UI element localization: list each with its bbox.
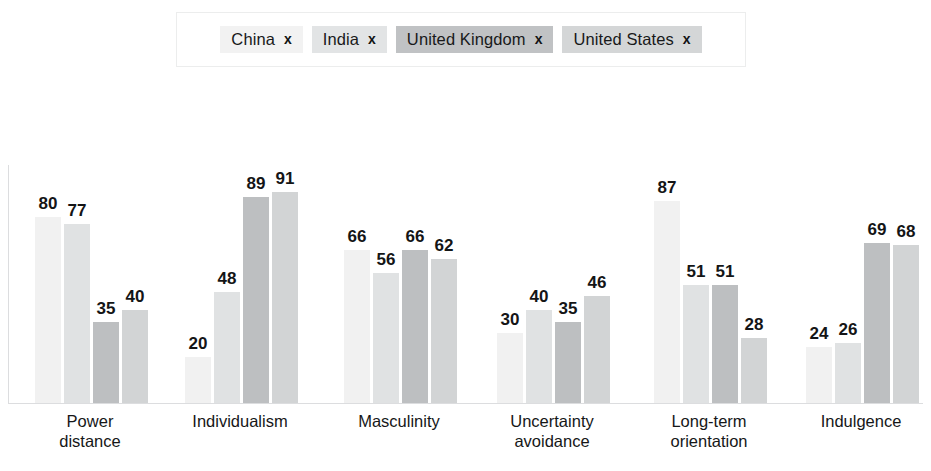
bar-value-label: 40 <box>126 288 145 305</box>
bar-rect[interactable] <box>344 250 370 403</box>
bar-value-label: 26 <box>839 321 858 338</box>
bar-group: 20488991 <box>185 138 298 403</box>
bar-value-label: 40 <box>530 288 549 305</box>
bar-rect[interactable] <box>64 224 90 403</box>
bar-value-label: 51 <box>716 263 735 280</box>
bar-value-label: 62 <box>435 237 454 254</box>
bar-rect[interactable] <box>893 245 919 403</box>
legend-chip-india[interactable]: Indiax <box>312 26 387 54</box>
bar-value-label: 46 <box>588 274 607 291</box>
bar-value-label: 35 <box>97 300 116 317</box>
bar-india[interactable]: 77 <box>64 138 90 403</box>
bar-value-label: 66 <box>348 228 367 245</box>
bar-value-label: 24 <box>810 325 829 342</box>
bar-china[interactable]: 20 <box>185 138 211 403</box>
bar-value-label: 87 <box>658 179 677 196</box>
bar-united-kingdom[interactable]: 89 <box>243 138 269 403</box>
bar-value-label: 28 <box>745 316 764 333</box>
bar-rect[interactable] <box>835 343 861 403</box>
bar-value-label: 30 <box>501 311 520 328</box>
x-axis-category-label: Indulgence <box>771 411 931 431</box>
bar-value-label: 66 <box>406 228 425 245</box>
bar-value-label: 20 <box>189 335 208 352</box>
bar-united-states[interactable]: 28 <box>741 138 767 403</box>
bar-value-label: 77 <box>68 202 87 219</box>
bar-china[interactable]: 30 <box>497 138 523 403</box>
bar-china[interactable]: 24 <box>806 138 832 403</box>
bar-value-label: 91 <box>276 170 295 187</box>
bar-india[interactable]: 56 <box>373 138 399 403</box>
bar-rect[interactable] <box>497 333 523 403</box>
bar-china[interactable]: 66 <box>344 138 370 403</box>
bar-rect[interactable] <box>185 357 211 403</box>
bar-india[interactable]: 40 <box>526 138 552 403</box>
bar-rect[interactable] <box>214 292 240 403</box>
bar-rect[interactable] <box>93 322 119 403</box>
bar-united-states[interactable]: 46 <box>584 138 610 403</box>
bar-rect[interactable] <box>555 322 581 403</box>
bar-rect[interactable] <box>526 310 552 403</box>
bar-china[interactable]: 87 <box>654 138 680 403</box>
bar-united-kingdom[interactable]: 66 <box>402 138 428 403</box>
bar-india[interactable]: 26 <box>835 138 861 403</box>
bar-group: 66566662 <box>344 138 457 403</box>
bar-group: 30403546 <box>497 138 610 403</box>
bar-rect[interactable] <box>402 250 428 403</box>
legend-remove-icon[interactable]: x <box>535 32 543 46</box>
bar-value-label: 69 <box>868 221 887 238</box>
legend-chip-united-states[interactable]: United Statesx <box>562 26 701 54</box>
bar-group: 80773540 <box>35 138 148 403</box>
bar-china[interactable]: 80 <box>35 138 61 403</box>
bar-united-states[interactable]: 62 <box>431 138 457 403</box>
bar-rect[interactable] <box>683 285 709 403</box>
x-axis-category-label: Individualism <box>150 411 330 431</box>
bar-rect[interactable] <box>373 273 399 403</box>
bar-india[interactable]: 51 <box>683 138 709 403</box>
legend-chip-label: China <box>231 31 275 48</box>
bar-united-kingdom[interactable]: 69 <box>864 138 890 403</box>
bar-rect[interactable] <box>122 310 148 403</box>
bar-value-label: 80 <box>39 195 58 212</box>
bar-value-label: 68 <box>897 223 916 240</box>
legend-remove-icon[interactable]: x <box>368 32 376 46</box>
bar-value-label: 35 <box>559 300 578 317</box>
bar-united-states[interactable]: 91 <box>272 138 298 403</box>
bar-value-label: 51 <box>687 263 706 280</box>
bar-united-kingdom[interactable]: 35 <box>555 138 581 403</box>
bar-rect[interactable] <box>741 338 767 403</box>
bar-value-label: 56 <box>377 251 396 268</box>
chart-legend: ChinaxIndiaxUnited KingdomxUnited States… <box>176 12 746 67</box>
bar-united-kingdom[interactable]: 51 <box>712 138 738 403</box>
x-axis-category-label: Uncertainty avoidance <box>462 411 642 451</box>
bar-rect[interactable] <box>431 259 457 403</box>
bar-value-label: 89 <box>247 175 266 192</box>
bar-rect[interactable] <box>35 217 61 403</box>
legend-chip-china[interactable]: Chinax <box>220 26 302 54</box>
legend-chip-label: India <box>323 31 359 48</box>
bar-group: 24266968 <box>806 138 919 403</box>
bar-rect[interactable] <box>272 192 298 403</box>
chart-plot-area: 80773540Power distance20488991Individual… <box>0 70 931 471</box>
bar-india[interactable]: 48 <box>214 138 240 403</box>
bar-rect[interactable] <box>806 347 832 403</box>
x-axis-line <box>8 403 923 404</box>
legend-chip-united-kingdom[interactable]: United Kingdomx <box>396 26 554 54</box>
legend-remove-icon[interactable]: x <box>683 32 691 46</box>
bar-united-kingdom[interactable]: 35 <box>93 138 119 403</box>
bar-united-states[interactable]: 40 <box>122 138 148 403</box>
legend-remove-icon[interactable]: x <box>284 32 292 46</box>
bar-rect[interactable] <box>584 296 610 403</box>
bar-rect[interactable] <box>243 197 269 403</box>
bar-value-label: 48 <box>218 270 237 287</box>
legend-chip-label: United Kingdom <box>407 31 526 48</box>
bar-rect[interactable] <box>654 201 680 403</box>
y-axis-line <box>8 165 9 404</box>
bar-group: 87515128 <box>654 138 767 403</box>
bar-rect[interactable] <box>864 243 890 403</box>
legend-chip-label: United States <box>573 31 673 48</box>
bar-rect[interactable] <box>712 285 738 403</box>
bar-united-states[interactable]: 68 <box>893 138 919 403</box>
